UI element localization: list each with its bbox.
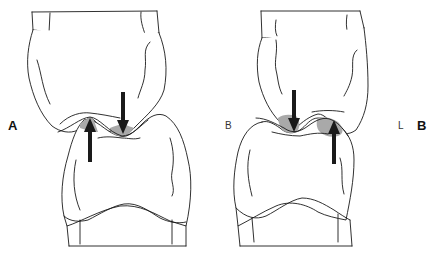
panel-a-label: A <box>8 119 17 132</box>
panel-b-upper-tooth <box>257 11 368 134</box>
panel-b-drawing <box>234 11 368 246</box>
panel-a-lower-tooth <box>58 114 191 246</box>
panel-a-drawing <box>28 11 191 246</box>
dental-occlusion-figure: A B L B <box>0 0 436 253</box>
panel-a-upper-tooth <box>28 11 166 137</box>
panel-b-side-label-lingual: L <box>398 121 404 131</box>
figure-canvas <box>0 0 436 253</box>
panel-b-side-label-buccal: B <box>225 121 232 131</box>
panel-b-label: B <box>417 119 426 132</box>
